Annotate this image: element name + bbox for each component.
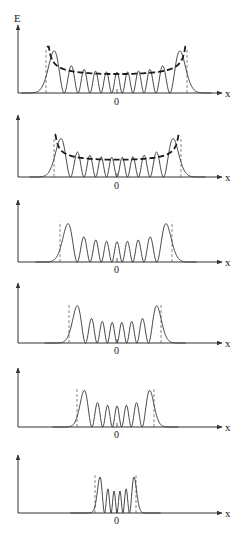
classical-probability-curve (47, 47, 186, 74)
origin-label: 0 (114, 345, 119, 356)
classical-probability-curve (55, 135, 180, 160)
quantum-probability-curve (71, 477, 161, 513)
origin-label: 0 (114, 264, 119, 275)
origin-label: 0 (114, 515, 119, 526)
quantum-probability-curve (30, 139, 206, 177)
panel-2: x0 (18, 200, 231, 275)
x-axis-label: x (225, 171, 231, 183)
x-axis-label: x (225, 87, 231, 99)
panel-5: x0 (18, 455, 231, 526)
x-axis-label: x (225, 507, 231, 519)
panel-4: x0 (18, 368, 231, 440)
origin-label: 0 (114, 180, 119, 191)
panel-1: x0 (18, 115, 231, 191)
quantum-probability-curve (53, 390, 179, 427)
x-axis-label: x (225, 256, 231, 268)
origin-label: 0 (114, 429, 119, 440)
x-axis-label: x (225, 421, 231, 433)
x-axis-label: x (225, 337, 231, 349)
panel-0: x0 (18, 25, 231, 107)
panel-3: x0 (18, 283, 231, 356)
oscillator-figure: x0x0x0x0x0x0 E (0, 0, 243, 535)
y-axis-label: E (14, 12, 21, 24)
quantum-probability-curve (45, 306, 186, 343)
origin-label: 0 (114, 96, 119, 107)
